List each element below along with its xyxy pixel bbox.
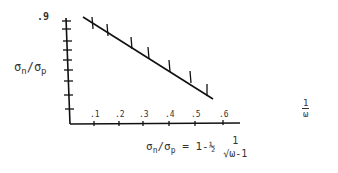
- x-tick-label: .2: [115, 110, 125, 119]
- x-axis: [70, 123, 240, 124]
- y-axis: [66, 18, 70, 124]
- data-line: [83, 17, 213, 99]
- formula-fraction: 1√ω-1: [223, 134, 247, 160]
- x-tick-label: .3: [139, 110, 149, 119]
- formula-annotation: σn/σp = 1-½1√ω-1: [146, 134, 247, 160]
- x-tick-label: .5: [191, 110, 201, 119]
- y-axis-top-label: .9: [37, 11, 49, 22]
- y-axis-label: σn/σp: [14, 60, 47, 76]
- x-tick-label: .1: [90, 110, 100, 119]
- x-tick-label: .4: [165, 110, 175, 119]
- x-axis-label: 1ω: [302, 98, 309, 119]
- x-tick-label: .6: [219, 110, 229, 119]
